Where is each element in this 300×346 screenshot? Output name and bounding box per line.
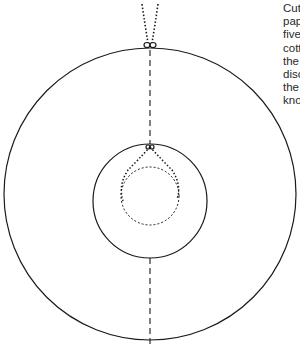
instruction-caption: Cut pap five cott the disc the kno	[283, 2, 300, 108]
caption-line: kno	[283, 94, 300, 107]
caption-line: the	[283, 81, 300, 94]
disc-diagram	[0, 0, 300, 346]
dotted-hole-circle	[121, 167, 179, 225]
caption-line: disc	[283, 68, 300, 81]
thread-loop-left	[121, 147, 150, 201]
caption-line: pap	[283, 15, 300, 28]
top-knot-icon	[144, 43, 156, 48]
caption-line: Cut	[283, 2, 300, 15]
inner-circle	[93, 144, 207, 258]
inner-knot-icon	[146, 145, 154, 149]
caption-line: five	[283, 28, 300, 41]
thread-strand-right	[152, 4, 158, 43]
caption-line: cott	[283, 42, 300, 55]
caption-line: the	[283, 55, 300, 68]
thread-loop-right	[150, 147, 179, 199]
thread-strand-left	[142, 4, 148, 43]
